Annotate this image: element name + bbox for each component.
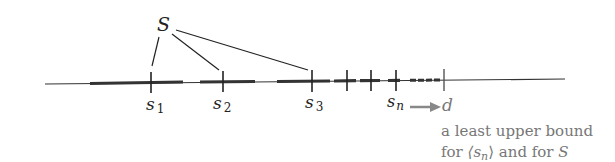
limit-label: d xyxy=(442,95,453,115)
segment-1 xyxy=(90,82,183,84)
label-s2: s2 xyxy=(213,93,231,115)
segment-3 xyxy=(277,81,330,82)
label-sn: sn xyxy=(387,92,404,113)
caption-line-1: a least upper bound xyxy=(441,122,593,140)
label-s3: s3 xyxy=(305,92,323,114)
connector-s3 xyxy=(176,30,308,70)
arrow-head-icon xyxy=(430,102,441,112)
connector-s2 xyxy=(172,34,219,70)
diagram: S s1 s2 s3 sn d a least upper bound for … xyxy=(0,0,615,162)
label-s1: s1 xyxy=(146,94,164,116)
connector-s1 xyxy=(152,37,159,66)
segment-2 xyxy=(200,82,255,83)
set-label: S xyxy=(157,13,170,35)
caption-line-2: for ⟨sn⟩ and for S xyxy=(441,143,569,162)
